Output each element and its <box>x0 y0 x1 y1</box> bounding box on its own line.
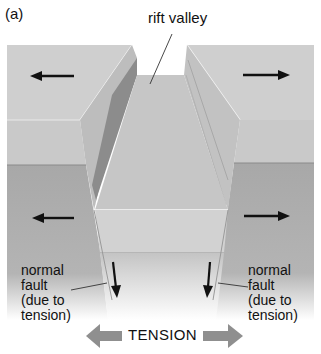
rift-valley-label: rift valley <box>148 10 207 25</box>
tension-label: TENSION <box>128 327 197 342</box>
normal-fault-left-label: normal fault (due to tension) <box>21 263 71 323</box>
normal-fault-right-label: normal fault (due to tension) <box>248 263 298 323</box>
tension-arrow-right-icon <box>203 324 243 348</box>
panel-label: (a) <box>5 6 23 21</box>
tension-arrow-left-icon <box>86 324 122 348</box>
